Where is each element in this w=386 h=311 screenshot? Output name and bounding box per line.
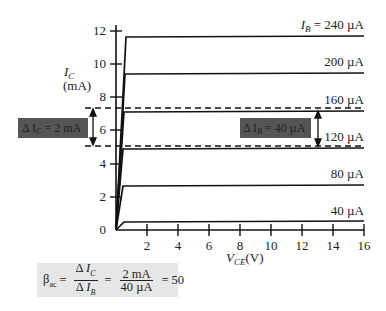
- label-200ua: 200 µA: [324, 54, 364, 69]
- svg-text:2: 2: [100, 189, 107, 204]
- curve-labels: IB = 240 µA 200 µA 160 µA 120 µA 80 µA 4…: [300, 17, 365, 218]
- delta-ic-dashed-lines: [85, 108, 364, 146]
- svg-text:12: 12: [296, 238, 309, 253]
- delta-ic-arrow-icon: [90, 109, 96, 145]
- delta-ib-arrow-icon: [315, 111, 321, 146]
- label-40ua: 40 µA: [331, 203, 365, 218]
- equals-sign: =: [105, 273, 112, 288]
- equals-sign: =: [59, 273, 66, 288]
- svg-text:14: 14: [327, 238, 341, 253]
- svg-text:6: 6: [206, 238, 213, 253]
- svg-text:4: 4: [100, 156, 107, 171]
- beta-formula: βac = Δ IC Δ IB = 2 mA 40 µA = 50: [37, 263, 178, 297]
- svg-text:8: 8: [237, 238, 244, 253]
- beta-result: 50: [172, 273, 185, 288]
- svg-text:8: 8: [100, 89, 107, 104]
- y-tick-labels: 12 10 8 6 4 2 0: [93, 23, 107, 237]
- delta-ic-label: Δ IC = 2 mA: [22, 121, 82, 136]
- delta-fraction: Δ IC Δ IB: [74, 262, 98, 298]
- svg-text:12: 12: [93, 23, 106, 38]
- svg-text:10: 10: [265, 238, 278, 253]
- curve-80ua: [116, 185, 364, 230]
- svg-text:6: 6: [100, 122, 107, 137]
- equals-sign: =: [161, 273, 168, 288]
- svg-text:0: 0: [100, 222, 107, 237]
- value-fraction: 2 mA 40 µA: [119, 268, 155, 293]
- y-axis-unit: (mA): [63, 78, 91, 93]
- label-120ua: 120 µA: [324, 129, 364, 144]
- label-80ua: 80 µA: [331, 166, 365, 181]
- svg-text:10: 10: [93, 56, 106, 71]
- label-160ua: 160 µA: [324, 92, 364, 107]
- curve-120ua: [116, 148, 364, 230]
- svg-text:16: 16: [358, 238, 372, 253]
- svg-text:4: 4: [175, 238, 182, 253]
- x-axis-title: VCE(V): [226, 250, 264, 267]
- label-240ua: IB = 240 µA: [300, 17, 365, 34]
- svg-text:2: 2: [144, 238, 151, 253]
- delta-ib-label: Δ IB = 40 µA: [243, 121, 306, 136]
- beta-symbol: βac: [43, 272, 56, 289]
